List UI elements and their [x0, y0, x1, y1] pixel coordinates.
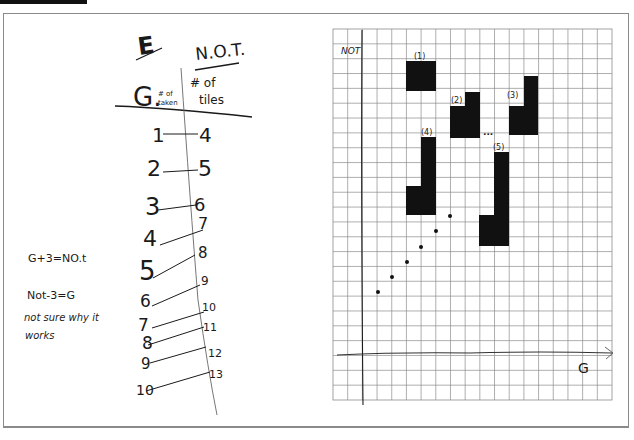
not-value: 11	[203, 321, 217, 334]
figure-label-5: (5)	[493, 143, 504, 152]
graph-paper	[333, 29, 612, 400]
figure-label-3: (3)	[507, 91, 518, 100]
not-header-underline	[195, 63, 239, 70]
g-value: 3	[145, 193, 160, 221]
worksheet-canvas: E N.O.T. # of tiles G. # of taken	[0, 0, 634, 440]
figure-label-1: (1)	[414, 52, 425, 61]
comment-line-1: not sure why it	[24, 312, 100, 323]
y-axis-label: NOT	[341, 46, 362, 56]
data-point	[419, 245, 423, 249]
col-g-sublabel-1: # of	[158, 90, 173, 98]
section-letter: E	[136, 31, 156, 61]
tile-table: E N.O.T. # of tiles G. # of taken	[115, 31, 252, 415]
equation-not-to-g: Not-3=G	[27, 289, 75, 302]
not-value: 6	[194, 194, 205, 215]
g-value: 2	[147, 156, 161, 181]
g-value: 8	[142, 333, 153, 353]
not-value: 10	[202, 301, 216, 314]
col-g-sublabel-2: taken	[158, 99, 178, 107]
not-value: 8	[198, 244, 208, 262]
not-value: 12	[208, 347, 222, 360]
data-point	[390, 275, 394, 279]
grid-border	[333, 29, 612, 400]
g-value: 9	[141, 355, 151, 373]
g-value: 10	[136, 382, 154, 398]
data-point	[434, 229, 438, 233]
table-column-divider	[181, 68, 217, 415]
data-point	[405, 260, 409, 264]
figure-label-4: (4)	[421, 128, 432, 137]
not-value: 13	[209, 368, 223, 381]
data-point	[376, 290, 380, 294]
col-not-sublabel-1: # of	[190, 76, 216, 90]
figure-1-tiles	[406, 61, 436, 91]
g-value: 5	[139, 256, 156, 286]
rule-notes: G+3=NO.t Not-3=G not sure why it works	[24, 252, 100, 341]
not-value: 9	[201, 274, 209, 288]
g-values: 1 2 3 4 5 6 7 8 9 10	[136, 123, 165, 398]
ellipsis-continuation: ...	[483, 127, 493, 137]
comment-line-2: works	[25, 330, 54, 341]
x-axis-label: G	[578, 360, 589, 376]
col-not-header: N.O.T.	[194, 39, 246, 64]
g-value: 4	[143, 226, 157, 251]
not-values: 4 5 6 7 8 9 10 11 12 13	[194, 123, 223, 381]
figure-label-2: (2)	[451, 96, 462, 105]
not-value: 5	[198, 156, 212, 181]
g-value: 7	[138, 315, 149, 335]
g-value: 1	[152, 123, 165, 147]
not-value: 4	[199, 123, 212, 147]
g-value: 6	[140, 291, 151, 311]
data-point	[448, 214, 452, 218]
col-not-sublabel-2: tiles	[199, 93, 224, 107]
not-value: 7	[198, 214, 208, 233]
equation-g-to-not: G+3=NO.t	[28, 252, 87, 265]
